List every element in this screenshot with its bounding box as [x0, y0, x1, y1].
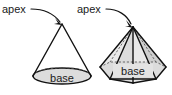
- cone-apex-annotation: apex: [2, 3, 62, 25]
- cone-base-label: base: [50, 72, 74, 84]
- cone-apex-label: apex: [2, 3, 26, 15]
- pyramid-base-label: base: [121, 65, 145, 77]
- cone-apex-leader-line: [31, 9, 60, 22]
- pyramid-apex-annotation: apex: [77, 3, 133, 28]
- cone-shape: base: [33, 24, 91, 84]
- geometry-diagram: base: [0, 0, 172, 95]
- pyramid-apex-label: apex: [77, 3, 101, 15]
- pyramid-shape: base: [100, 27, 166, 83]
- figure-container: base: [0, 0, 172, 95]
